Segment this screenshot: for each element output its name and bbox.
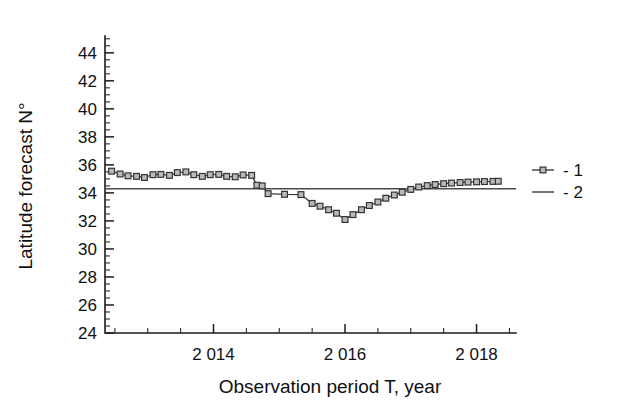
y-tick-label: 38 xyxy=(78,128,97,147)
data-point-marker xyxy=(432,182,438,188)
data-point-marker xyxy=(142,175,148,181)
y-tick-label: 40 xyxy=(78,100,97,119)
legend-label-2: - 2 xyxy=(563,183,583,202)
data-point-marker xyxy=(317,203,323,209)
data-point-marker xyxy=(416,184,422,190)
chart-legend: - 1- 2 xyxy=(532,161,583,202)
x-axis-ticks xyxy=(115,324,510,333)
data-point-marker xyxy=(109,168,115,174)
x-tick-label: 2 016 xyxy=(324,345,367,364)
data-point-marker xyxy=(158,172,164,178)
data-point-marker xyxy=(199,173,205,179)
legend-swatch-marker-1 xyxy=(540,167,546,173)
data-point-marker xyxy=(391,192,397,198)
data-point-marker xyxy=(232,174,238,180)
data-point-marker xyxy=(350,212,356,218)
data-point-marker xyxy=(495,178,501,184)
chart-figure: 2426283032343638404244 2 0142 0162 018 -… xyxy=(0,0,631,412)
y-tick-label: 34 xyxy=(78,184,97,203)
data-point-marker xyxy=(482,179,488,185)
data-point-marker xyxy=(375,199,381,205)
data-point-marker xyxy=(465,179,471,185)
x-tick-label: 2 014 xyxy=(192,345,235,364)
data-point-marker xyxy=(207,172,213,178)
data-point-marker xyxy=(474,179,480,185)
data-point-marker xyxy=(309,201,315,207)
data-point-marker xyxy=(125,173,131,179)
y-tick-label: 24 xyxy=(78,324,97,343)
data-point-marker xyxy=(282,191,288,197)
x-tick-label: 2 018 xyxy=(455,345,498,364)
data-point-marker xyxy=(342,217,348,223)
data-point-marker xyxy=(399,189,405,195)
chart-canvas: 2426283032343638404244 2 0142 0162 018 -… xyxy=(0,0,631,412)
y-tick-label: 42 xyxy=(78,72,97,91)
data-point-marker xyxy=(150,172,156,178)
data-point-marker xyxy=(359,207,365,213)
data-point-marker xyxy=(134,173,140,179)
data-point-marker xyxy=(383,195,389,201)
data-point-marker xyxy=(216,172,222,178)
y-tick-label: 28 xyxy=(78,268,97,287)
data-point-marker xyxy=(424,183,430,189)
y-tick-label: 26 xyxy=(78,296,97,315)
y-tick-label: 30 xyxy=(78,240,97,259)
data-point-marker xyxy=(449,180,455,186)
data-point-marker xyxy=(117,171,123,177)
x-axis-title: Observation period T, year xyxy=(219,376,442,397)
y-axis-title: Latitude forecast N° xyxy=(15,102,36,269)
data-point-marker xyxy=(326,207,332,213)
y-axis-ticks xyxy=(105,39,114,333)
data-point-marker xyxy=(183,169,189,175)
data-point-marker xyxy=(249,172,255,178)
data-point-marker xyxy=(441,181,447,187)
data-point-marker xyxy=(334,210,340,216)
data-point-marker xyxy=(259,183,265,189)
x-axis-tick-labels: 2 0142 0162 018 xyxy=(192,345,498,364)
data-point-marker xyxy=(191,172,197,178)
y-tick-label: 44 xyxy=(78,44,97,63)
data-point-marker xyxy=(265,191,271,197)
series-1-markers xyxy=(109,168,501,222)
data-point-marker xyxy=(224,173,230,179)
y-tick-label: 32 xyxy=(78,212,97,231)
data-point-marker xyxy=(408,187,414,193)
data-point-marker xyxy=(240,172,246,178)
legend-label-1: - 1 xyxy=(563,161,583,180)
y-axis-tick-labels: 2426283032343638404244 xyxy=(78,44,97,343)
data-point-marker xyxy=(366,203,372,209)
data-point-marker xyxy=(174,170,180,176)
y-tick-label: 36 xyxy=(78,156,97,175)
data-point-marker xyxy=(167,172,173,178)
data-point-marker xyxy=(457,180,463,186)
data-point-marker xyxy=(298,192,304,198)
